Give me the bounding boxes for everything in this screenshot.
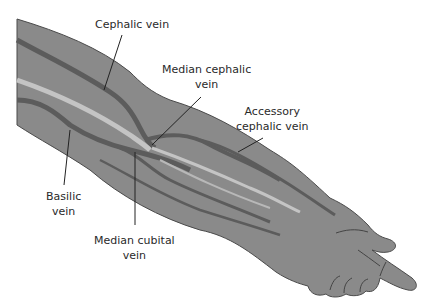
label-accessory-cephalic-vein: Accessory cephalic vein xyxy=(236,104,308,134)
arm-silhouette xyxy=(17,19,416,297)
label-median-cubital-vein: Median cubital vein xyxy=(94,233,175,263)
label-line: cephalic vein xyxy=(236,119,308,134)
label-line: vein xyxy=(162,77,251,92)
label-median-cephalic-vein: Median cephalic vein xyxy=(162,62,251,92)
label-cephalic-vein: Cephalic vein xyxy=(95,17,169,32)
label-line: Accessory xyxy=(236,104,308,119)
label-line: vein xyxy=(46,204,81,219)
label-line: Median cephalic xyxy=(162,62,251,77)
label-line: Basilic xyxy=(46,189,81,204)
label-line: Median cubital xyxy=(94,233,175,248)
label-line: Cephalic vein xyxy=(95,17,169,32)
label-line: vein xyxy=(94,248,175,263)
arm-illustration xyxy=(0,0,432,303)
label-basilic-vein: Basilic vein xyxy=(46,189,81,219)
